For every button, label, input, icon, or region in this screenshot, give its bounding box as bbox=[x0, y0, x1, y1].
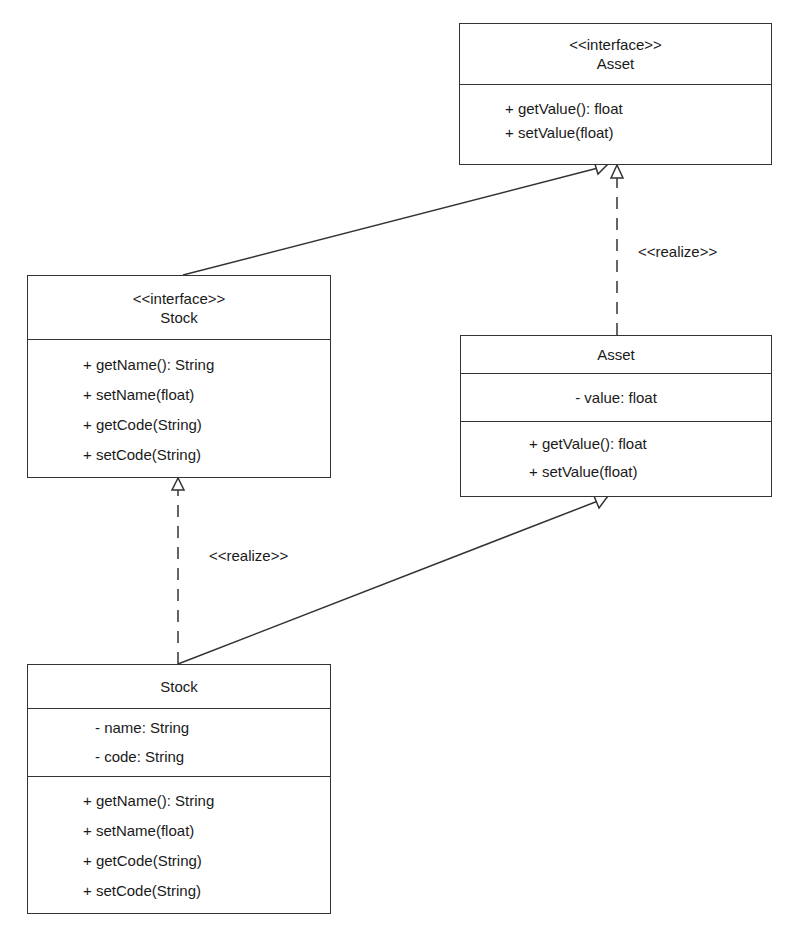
operation: + getValue(): float bbox=[505, 97, 771, 121]
class-header: <<interface>> Stock bbox=[28, 276, 330, 340]
generalization-line-stock-interface-to-asset-interface bbox=[183, 168, 598, 275]
class-box-stock[interactable]: Stock - name: String - code: String + ge… bbox=[27, 664, 331, 914]
realize-label-stock: <<realize>> bbox=[209, 547, 288, 564]
operation: + getValue(): float bbox=[529, 430, 771, 458]
class-box-asset-interface[interactable]: <<interface>> Asset + getValue(): float … bbox=[459, 23, 772, 165]
operation: + setCode(String) bbox=[83, 876, 330, 906]
class-header: Asset bbox=[461, 336, 771, 374]
class-header: Stock bbox=[28, 665, 330, 709]
attributes-compartment: - value: float bbox=[461, 374, 771, 422]
operation: + setName(float) bbox=[83, 380, 330, 410]
stereotype-label: <<interface>> bbox=[133, 289, 226, 308]
operations-compartment: + getName(): String + setName(float) + g… bbox=[28, 340, 330, 470]
generalization-line-stock-class-to-asset-class bbox=[178, 501, 598, 664]
hollow-triangle-arrow-icon bbox=[172, 478, 184, 490]
class-name: Asset bbox=[597, 345, 635, 364]
class-name: Stock bbox=[160, 308, 198, 327]
stereotype-label: <<interface>> bbox=[569, 35, 662, 54]
realize-label-asset: <<realize>> bbox=[638, 243, 717, 260]
attribute: - code: String bbox=[95, 742, 330, 771]
operation: + getCode(String) bbox=[83, 846, 330, 876]
operations-compartment: + getName(): String + setName(float) + g… bbox=[28, 777, 330, 906]
operations-compartment: + getValue(): float + setValue(float) bbox=[460, 85, 771, 145]
attribute: - name: String bbox=[95, 713, 330, 742]
class-box-stock-interface[interactable]: <<interface>> Stock + getName(): String … bbox=[27, 275, 331, 478]
class-header: <<interface>> Asset bbox=[460, 24, 771, 85]
operation: + setName(float) bbox=[83, 816, 330, 846]
class-name: Asset bbox=[597, 54, 635, 73]
attribute: - value: float bbox=[575, 386, 657, 410]
operation: + getCode(String) bbox=[83, 410, 330, 440]
class-name: Stock bbox=[160, 677, 198, 696]
hollow-triangle-arrow-icon bbox=[594, 496, 608, 508]
operation: + setValue(float) bbox=[529, 458, 771, 486]
operation: + getName(): String bbox=[83, 350, 330, 380]
operation: + setValue(float) bbox=[505, 121, 771, 145]
operation: + getName(): String bbox=[83, 786, 330, 816]
attributes-compartment: - name: String - code: String bbox=[28, 709, 330, 777]
hollow-triangle-arrow-icon bbox=[611, 165, 623, 178]
operation: + setCode(String) bbox=[83, 440, 330, 470]
operations-compartment: + getValue(): float + setValue(float) bbox=[461, 422, 771, 486]
class-box-asset[interactable]: Asset - value: float + getValue(): float… bbox=[460, 335, 772, 497]
